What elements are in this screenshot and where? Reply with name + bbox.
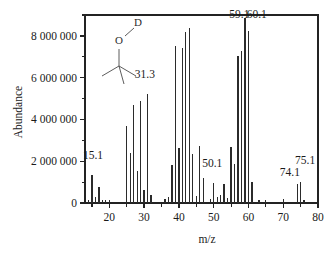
bond-o-to-d — [125, 28, 134, 36]
x-tick-label: 70 — [277, 211, 289, 223]
y-tick-label: 2 000 000 — [31, 155, 77, 167]
x-tick-label: 50 — [208, 211, 220, 223]
x-tick-label: 30 — [138, 211, 150, 223]
x-axis-tick-labels: 20304050607080 — [104, 211, 324, 223]
y-tick-label: 0 — [71, 197, 77, 209]
peak-label: 15.1 — [83, 149, 103, 161]
y-axis-tick-labels: 02 000 0004 000 0006 000 0008 000 000 — [31, 30, 77, 209]
x-tick-label: 40 — [173, 211, 185, 223]
mass-spectrum-figure: 02 000 0004 000 0006 000 0008 000 000 20… — [0, 0, 330, 254]
y-axis-ticks — [80, 15, 85, 203]
x-axis-title: m/z — [198, 233, 215, 245]
atom-label-oxygen: O — [115, 34, 123, 46]
x-tick-label: 80 — [312, 211, 324, 223]
mass-spectrum-chart: 02 000 0004 000 0006 000 0008 000 000 20… — [0, 0, 330, 254]
y-axis-title: Abundance — [12, 86, 24, 138]
x-tick-label: 60 — [243, 211, 255, 223]
y-tick-label: 4 000 000 — [31, 113, 77, 125]
peak-label: 50.1 — [202, 157, 222, 169]
atom-label-deuterium: D — [134, 16, 142, 28]
x-tick-label: 20 — [104, 211, 116, 223]
y-tick-label: 6 000 000 — [31, 72, 77, 84]
y-tick-label: 8 000 000 — [31, 30, 77, 42]
peak-label: 75.1 — [295, 154, 315, 166]
peak-label: 74.1 — [280, 166, 300, 178]
x-axis-ticks — [92, 203, 318, 208]
peak-label: 31.3 — [135, 68, 155, 80]
peak-label: 60.1 — [247, 8, 267, 20]
bond-c-methyl-left — [102, 66, 119, 76]
